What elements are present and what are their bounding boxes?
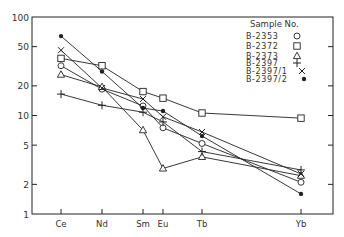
dot-filled-marker: [302, 77, 306, 81]
circle-open-marker: [199, 140, 205, 146]
legend: Sample No.B-2353B-2372B-2373B-2397B-2397…: [246, 19, 306, 84]
y-tick-label: 10: [18, 111, 30, 121]
square-open-marker: [298, 115, 304, 121]
triangle-open-marker: [293, 52, 300, 58]
x-tick-label: Eu: [158, 219, 169, 229]
plot-frame: [32, 17, 333, 214]
x-tick-label: Yb: [295, 219, 307, 229]
plus-marker: [293, 59, 301, 67]
y-axis: 125102050100: [12, 13, 333, 220]
square-open-marker: [199, 110, 205, 116]
legend-label: B-2353: [246, 32, 278, 41]
circle-open-marker: [298, 179, 304, 185]
x-tick-label: Tb: [196, 219, 208, 229]
square-open-marker: [140, 88, 146, 94]
x-marker: [140, 96, 146, 102]
y-tick-label: 20: [18, 81, 30, 91]
square-open-marker: [160, 95, 166, 101]
dot-filled-marker: [161, 109, 165, 113]
ree-pattern-chart: 125102050100 CeNdSmEuTbYb Sample No.B-23…: [0, 0, 344, 237]
x-tick-label: Nd: [96, 219, 108, 229]
legend-label: B-2397/2: [246, 75, 287, 84]
x-tick-label: Ce: [55, 219, 66, 229]
x-axis: CeNdSmEuTbYb: [55, 209, 306, 229]
dot-filled-marker: [141, 106, 145, 110]
square-open-marker: [294, 43, 300, 49]
y-tick-label: 2: [23, 180, 29, 190]
plus-marker: [57, 90, 65, 98]
legend-title: Sample No.: [250, 19, 299, 29]
square-open-marker: [99, 63, 105, 69]
series-B-2373: [57, 71, 304, 178]
plus-marker: [198, 148, 206, 156]
x-marker: [299, 68, 305, 74]
dot-filled-marker: [299, 192, 303, 196]
triangle-open-marker: [57, 71, 64, 77]
dot-filled-marker: [200, 134, 204, 138]
circle-open-marker: [294, 33, 300, 39]
series-B-2397: [57, 90, 305, 174]
y-tick-label: 100: [12, 13, 29, 23]
legend-label: B-2372: [246, 42, 278, 51]
x-tick-label: Sm: [136, 219, 150, 229]
y-tick-label: 5: [23, 141, 29, 151]
circle-open-marker: [58, 63, 64, 69]
plot-border: [32, 17, 333, 214]
plus-marker: [98, 101, 106, 109]
dot-filled-marker: [59, 34, 63, 38]
dot-filled-marker: [100, 69, 104, 73]
y-tick-label: 50: [18, 42, 30, 52]
x-marker: [58, 47, 64, 53]
series-line: [61, 75, 301, 176]
square-open-marker: [58, 55, 64, 61]
y-tick-label: 1: [23, 210, 29, 220]
